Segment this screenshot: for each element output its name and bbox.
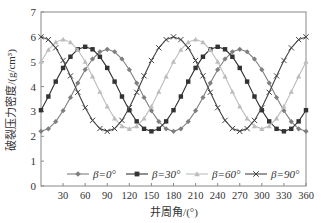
x-tick-label: 90 <box>102 190 113 201</box>
diamond-marker <box>208 80 213 85</box>
triangle-marker <box>237 104 242 109</box>
triangle-marker <box>281 104 286 109</box>
triangle-marker <box>156 89 161 94</box>
legend-item: β=30° <box>126 168 181 180</box>
y-tick-label: 5 <box>31 56 37 68</box>
square-marker <box>120 94 124 98</box>
triangle-marker <box>97 89 102 94</box>
x-tick-label: 360 <box>298 190 314 201</box>
legend-label: β=60° <box>211 168 241 180</box>
diamond-marker <box>303 129 308 134</box>
x-tick-label: 270 <box>232 190 248 201</box>
square-marker <box>179 94 183 98</box>
square-marker <box>296 119 300 123</box>
x-axis-label: 井周角/(°) <box>150 205 198 219</box>
legend-label: β=30° <box>151 168 181 180</box>
square-marker <box>304 108 308 112</box>
y-axis-label: 破裂压力密度/(g/cm³) <box>4 49 18 151</box>
square-marker <box>68 55 72 59</box>
x-tick-label: 330 <box>276 190 292 201</box>
square-marker <box>83 45 87 49</box>
square-marker <box>61 66 65 70</box>
square-marker <box>171 108 175 112</box>
x-tick-label: 60 <box>80 190 91 201</box>
series-1 <box>39 45 308 134</box>
line-chart: 0123456730609012015018021024027030033036… <box>0 0 323 223</box>
square-marker <box>274 127 278 131</box>
diamond-marker <box>75 171 81 177</box>
triangle-marker <box>83 59 88 64</box>
square-marker <box>238 66 242 70</box>
square-marker <box>193 66 197 70</box>
y-tick-label: 7 <box>31 6 37 18</box>
triangle-marker <box>105 104 110 109</box>
y-tick-label: 6 <box>31 31 37 43</box>
diamond-marker <box>75 80 80 85</box>
diamond-marker <box>237 47 242 52</box>
square-marker <box>112 79 116 83</box>
y-tick-label: 0 <box>31 180 37 192</box>
square-marker <box>201 55 205 59</box>
diamond-marker <box>171 129 176 134</box>
diamond-marker <box>274 95 279 100</box>
square-marker <box>252 94 256 98</box>
square-marker <box>90 47 94 51</box>
x-tick-label: 120 <box>121 190 137 201</box>
triangle-marker <box>164 74 169 79</box>
triangle-marker <box>303 59 308 64</box>
triangle-marker <box>289 89 294 94</box>
square-marker <box>142 127 146 131</box>
legend-item: β=90° <box>245 168 300 180</box>
triangle-marker <box>222 74 227 79</box>
diamond-marker <box>38 129 43 134</box>
square-marker <box>157 127 161 131</box>
diamond-marker <box>200 95 205 100</box>
square-marker <box>282 129 286 133</box>
square-marker <box>149 129 153 133</box>
legend-item: β=0° <box>67 168 116 180</box>
square-marker <box>135 172 140 177</box>
square-marker <box>54 79 58 83</box>
square-marker <box>223 47 227 51</box>
diamond-marker <box>68 95 73 100</box>
square-marker <box>39 108 43 112</box>
legend-label: β=0° <box>92 168 116 180</box>
triangle-marker <box>193 37 198 42</box>
triangle-marker <box>296 74 301 79</box>
square-marker <box>98 55 102 59</box>
square-marker <box>186 79 190 83</box>
square-marker <box>245 79 249 83</box>
square-marker <box>289 127 293 131</box>
y-tick-label: 4 <box>31 81 37 93</box>
triangle-marker <box>60 37 65 42</box>
triangle-marker <box>215 59 220 64</box>
triangle-marker <box>230 89 235 94</box>
legend-label: β=90° <box>270 168 300 180</box>
square-marker <box>134 119 138 123</box>
x-tick-label: 300 <box>254 190 270 201</box>
plot-area <box>38 34 308 134</box>
legend: β=0°β=30°β=60°β=90° <box>67 168 300 180</box>
y-tick-label: 1 <box>31 155 37 167</box>
x-tick-label: 150 <box>144 190 160 201</box>
series-line <box>41 39 306 129</box>
diamond-marker <box>267 80 272 85</box>
chart-svg: 0123456730609012015018021024027030033036… <box>0 0 323 223</box>
triangle-marker <box>90 74 95 79</box>
x-tick-label: 30 <box>58 190 69 201</box>
square-marker <box>105 66 109 70</box>
square-marker <box>164 119 168 123</box>
x-tick-label: 210 <box>188 190 204 201</box>
square-marker <box>267 119 271 123</box>
y-tick-label: 3 <box>31 105 37 117</box>
diamond-marker <box>105 47 110 52</box>
legend-item: β=60° <box>186 168 241 180</box>
square-marker <box>46 94 50 98</box>
triangle-marker <box>149 104 154 109</box>
triangle-marker <box>171 59 176 64</box>
square-marker <box>215 45 219 49</box>
x-tick-label: 240 <box>210 190 226 201</box>
y-tick-label: 2 <box>31 130 37 142</box>
diamond-marker <box>134 80 139 85</box>
x-tick-label: 180 <box>166 190 182 201</box>
